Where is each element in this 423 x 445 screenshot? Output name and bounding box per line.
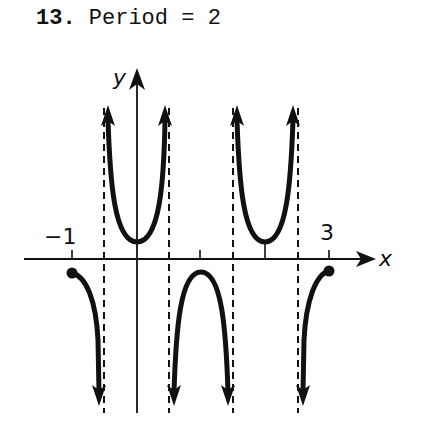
x-axis [24, 244, 376, 267]
tick-label-neg1: −1 [44, 224, 76, 249]
graph: y x −1 3 [0, 0, 423, 445]
branch-lower-1 [174, 272, 228, 392]
branch-right-lower [303, 271, 329, 392]
endpoint-left [67, 268, 78, 279]
y-axis-label: y [112, 65, 127, 90]
asymptotes [104, 108, 298, 413]
branch-upper-2 [237, 120, 293, 242]
endpoint-right [324, 266, 335, 277]
branch-left-lower [72, 273, 99, 392]
x-axis-label: x [378, 246, 393, 271]
tick-label-3: 3 [320, 220, 334, 245]
curve-arrows [92, 105, 310, 406]
